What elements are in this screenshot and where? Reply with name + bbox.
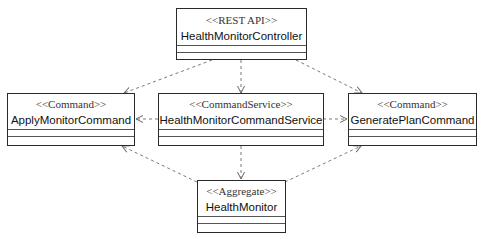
operations-compartment — [177, 53, 306, 59]
class-name: HealthMonitor — [206, 200, 278, 215]
attributes-compartment — [349, 130, 476, 137]
attributes-compartment — [8, 130, 134, 137]
operations-compartment — [159, 137, 323, 145]
class-header: <<REST API>> HealthMonitorController — [177, 9, 306, 46]
class-apply-monitor-command: <<Command>> ApplyMonitorCommand — [7, 93, 135, 146]
class-header: <<CommandService>> HealthMonitorCommandS… — [159, 94, 323, 130]
operations-compartment — [349, 137, 476, 145]
class-generate-plan-command: <<Command>> GeneratePlanCommand — [348, 93, 477, 146]
class-header: <<Command>> GeneratePlanCommand — [349, 94, 476, 130]
class-name: GeneratePlanCommand — [350, 113, 474, 128]
operations-compartment — [8, 137, 134, 145]
class-name: ApplyMonitorCommand — [11, 113, 131, 128]
stereotype-label: <<Aggregate>> — [206, 185, 277, 198]
edge-aggregate-to-generate — [285, 146, 361, 182]
edge-controller-to-generate — [296, 60, 362, 93]
class-health-monitor-command-service: <<CommandService>> HealthMonitorCommandS… — [158, 93, 324, 146]
stereotype-label: <<REST API>> — [206, 14, 277, 27]
stereotype-label: <<CommandService>> — [189, 98, 293, 111]
class-health-monitor-controller: <<REST API>> HealthMonitorController — [176, 8, 307, 60]
class-name: HealthMonitorController — [181, 29, 302, 44]
edge-controller-to-apply — [124, 60, 212, 93]
class-health-monitor: <<Aggregate>> HealthMonitor — [197, 180, 286, 233]
class-header: <<Aggregate>> HealthMonitor — [198, 181, 285, 217]
class-header: <<Command>> ApplyMonitorCommand — [8, 94, 134, 130]
attributes-compartment — [198, 217, 285, 224]
attributes-compartment — [159, 130, 323, 137]
class-name: HealthMonitorCommandService — [160, 113, 323, 128]
stereotype-label: <<Command>> — [36, 98, 107, 111]
attributes-compartment — [177, 46, 306, 53]
stereotype-label: <<Command>> — [377, 98, 448, 111]
operations-compartment — [198, 224, 285, 232]
edge-aggregate-to-apply — [122, 146, 197, 182]
